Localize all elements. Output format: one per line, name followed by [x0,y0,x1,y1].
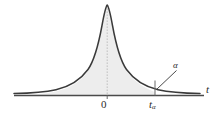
distribution-plot [0,0,221,123]
critical-value-subscript: α [152,103,156,111]
t-distribution-figure: 0 tα α t [0,0,221,123]
x-axis-label: t [206,84,209,95]
critical-value-label: tα [149,99,156,111]
tail-area-alpha-label: α [173,61,178,70]
origin-label: 0 [101,99,107,110]
alpha-leader-line [157,71,177,90]
shaded-area-under-curve [14,7,155,96]
